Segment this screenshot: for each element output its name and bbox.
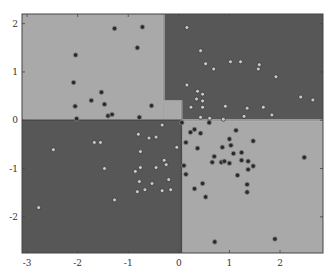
- data-point: [147, 136, 151, 140]
- data-point: [160, 189, 164, 193]
- decision-boundary-chart: -3-2-1012 210-1-2: [0, 0, 335, 277]
- data-point: [167, 178, 171, 182]
- data-point: [212, 154, 217, 159]
- x-tick-label: 2: [277, 258, 283, 268]
- data-point: [198, 131, 203, 136]
- data-point: [246, 159, 251, 164]
- data-point: [207, 120, 212, 125]
- data-point: [261, 105, 265, 109]
- data-point: [89, 98, 94, 103]
- data-point: [92, 140, 96, 144]
- data-point: [245, 190, 250, 195]
- data-point: [201, 92, 205, 96]
- region-notch: [164, 101, 182, 120]
- data-point: [138, 166, 142, 170]
- data-point: [270, 113, 274, 117]
- data-point: [99, 90, 104, 95]
- data-point: [182, 163, 187, 168]
- data-point: [71, 80, 76, 85]
- data-point: [212, 240, 217, 245]
- x-tick-label: -1: [124, 258, 133, 268]
- data-point: [273, 237, 278, 242]
- region-bottom-left: [22, 120, 181, 253]
- data-point: [199, 115, 203, 119]
- data-point: [185, 26, 189, 30]
- data-point: [189, 105, 193, 109]
- data-point: [203, 195, 208, 200]
- data-point: [223, 104, 227, 108]
- y-tick-label: 0: [12, 115, 18, 125]
- data-point: [210, 160, 215, 165]
- data-point: [208, 116, 212, 120]
- data-point: [222, 159, 227, 164]
- data-point: [112, 26, 117, 31]
- x-tick-label: -3: [23, 258, 32, 268]
- data-point: [138, 150, 142, 154]
- x-tick-label: 1: [227, 258, 233, 268]
- data-point: [200, 181, 205, 186]
- data-point: [239, 60, 243, 64]
- decision-regions: [22, 14, 323, 253]
- data-point: [184, 172, 189, 177]
- y-tick-label: 2: [12, 19, 18, 29]
- data-point: [164, 163, 168, 167]
- data-point: [102, 167, 106, 171]
- data-point: [51, 148, 55, 152]
- data-point: [140, 25, 145, 30]
- data-point: [135, 190, 139, 194]
- data-point: [245, 182, 250, 187]
- data-point: [102, 102, 107, 107]
- data-point: [184, 140, 189, 145]
- data-point: [212, 67, 216, 71]
- data-point: [136, 132, 140, 136]
- data-point: [160, 123, 164, 127]
- data-point: [228, 60, 232, 64]
- data-point: [150, 181, 154, 185]
- data-point: [242, 114, 246, 118]
- data-point: [201, 99, 205, 103]
- data-point: [175, 145, 179, 149]
- region-top-right: [164, 14, 323, 120]
- data-point: [204, 62, 208, 66]
- data-point: [199, 49, 203, 53]
- data-point: [302, 155, 307, 160]
- data-point: [110, 112, 115, 117]
- data-point: [245, 106, 249, 110]
- y-tick-label: -2: [9, 212, 18, 222]
- x-tick-label: -2: [73, 258, 82, 268]
- data-point: [192, 127, 197, 132]
- data-point: [195, 97, 199, 101]
- data-point: [201, 105, 205, 109]
- data-point: [196, 89, 200, 93]
- y-tick-label: 1: [12, 67, 18, 77]
- y-tick-label: -1: [9, 164, 18, 174]
- data-point: [227, 161, 232, 166]
- data-point: [98, 140, 102, 144]
- data-point: [257, 63, 261, 67]
- data-point: [239, 158, 244, 163]
- data-point: [227, 137, 232, 142]
- data-point: [256, 67, 260, 71]
- data-point: [246, 167, 251, 172]
- data-point: [162, 158, 166, 162]
- data-point: [229, 143, 234, 148]
- data-point: [234, 128, 239, 133]
- data-point: [188, 130, 193, 135]
- data-point: [195, 146, 200, 151]
- x-tick-label: 0: [176, 258, 182, 268]
- data-point: [154, 166, 158, 170]
- data-point: [113, 198, 117, 202]
- data-point: [251, 139, 256, 144]
- data-point: [73, 53, 78, 58]
- data-point: [37, 206, 41, 210]
- data-point: [235, 173, 240, 178]
- data-point: [73, 104, 78, 109]
- data-point: [180, 120, 185, 125]
- region-top-left: [22, 14, 164, 120]
- data-point: [137, 115, 142, 120]
- data-point: [231, 151, 236, 156]
- data-point: [274, 75, 278, 79]
- data-point: [135, 45, 140, 50]
- data-point: [133, 169, 137, 173]
- data-point: [192, 186, 197, 191]
